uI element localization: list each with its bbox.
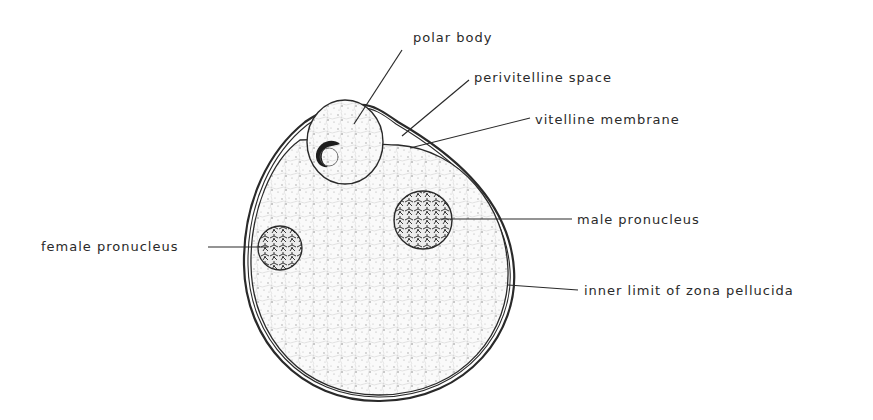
female-pronucleus — [258, 226, 302, 270]
leader-perivitelline-space — [402, 80, 469, 136]
leader-vitelline-membrane — [410, 118, 530, 148]
male-pronucleus — [394, 191, 452, 249]
label-zona-pellucida: inner limit of zona pellucida — [584, 283, 794, 298]
label-perivitelline-space: perivitelline space — [474, 70, 612, 85]
label-male-pronucleus: male pronucleus — [577, 212, 700, 227]
leader-zona-pellucida — [508, 285, 578, 290]
label-vitelline-membrane: vitelline membrane — [535, 112, 680, 127]
label-polar-body: polar body — [413, 30, 492, 45]
egg-diagram: polar body perivitelline space vitelline… — [0, 0, 873, 420]
polar-body — [307, 100, 383, 184]
label-female-pronucleus: female pronucleus — [41, 239, 178, 254]
